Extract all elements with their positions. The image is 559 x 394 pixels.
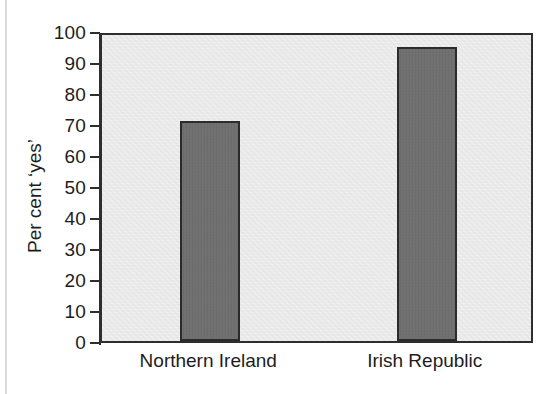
bar-texture	[182, 123, 238, 339]
bar	[397, 47, 457, 342]
y-axis-tick	[90, 32, 100, 34]
y-axis-tick	[90, 187, 100, 189]
bar-chart: 0102030405060708090100 Per cent ‘yes’ No…	[0, 0, 559, 394]
y-axis-tick	[90, 125, 100, 127]
y-axis-tick	[90, 218, 100, 220]
y-axis-tick-label: 50	[42, 178, 86, 197]
y-axis-tick	[90, 94, 100, 96]
y-axis-tick	[90, 280, 100, 282]
x-axis-category-label: Northern Ireland	[100, 350, 317, 372]
bar	[180, 121, 240, 341]
y-axis-tick	[90, 342, 100, 344]
figure-page: 0102030405060708090100 Per cent ‘yes’ No…	[0, 0, 559, 394]
y-axis-tick	[90, 311, 100, 313]
y-axis-tick	[90, 249, 100, 251]
y-axis-tick-label: 40	[42, 209, 86, 228]
y-axis-tick-label: 60	[42, 147, 86, 166]
x-axis-category-label: Irish Republic	[317, 350, 534, 372]
y-axis-tick-label: 70	[42, 116, 86, 135]
plot-area	[100, 33, 533, 343]
y-axis-title: Per cent ‘yes’	[24, 101, 46, 291]
y-axis-tick	[90, 63, 100, 65]
y-axis-tick-label: 100	[42, 23, 86, 42]
bar-texture	[399, 49, 455, 340]
y-axis-tick-label: 90	[42, 54, 86, 73]
plot-background-texture	[102, 35, 531, 341]
y-axis-tick-label: 30	[42, 240, 86, 259]
y-axis-tick-label: 80	[42, 85, 86, 104]
y-axis-tick	[90, 156, 100, 158]
y-axis-tick-label: 20	[42, 271, 86, 290]
y-axis-tick-label: 10	[42, 302, 86, 321]
y-axis-tick-label: 0	[42, 333, 86, 352]
